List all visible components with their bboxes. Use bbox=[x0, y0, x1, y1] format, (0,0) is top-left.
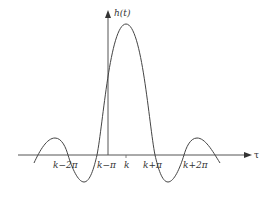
tick-label-k-minus-pi: k−π bbox=[97, 160, 117, 170]
tick-label-k-minus-2pi: k−2π bbox=[53, 160, 79, 170]
x-axis-arrow-icon bbox=[244, 152, 252, 158]
tick-label-k-plus-2pi: k+2π bbox=[183, 160, 209, 170]
sinc-diagram: τ h(t) k−2π k−π k k+π k+2π bbox=[0, 0, 266, 198]
sinc-curve bbox=[34, 24, 220, 182]
tick-label-k-plus-pi: k+π bbox=[143, 160, 163, 170]
y-axis-label: h(t) bbox=[114, 8, 131, 18]
tick-label-k: k bbox=[124, 160, 129, 170]
y-axis-arrow-icon bbox=[105, 10, 111, 18]
x-axis-label: τ bbox=[254, 150, 259, 160]
